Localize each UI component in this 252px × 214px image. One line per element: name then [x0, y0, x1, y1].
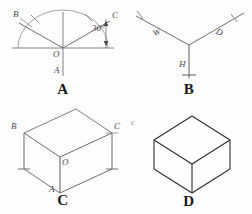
axis-width [136, 16, 189, 45]
bottom-edge-front-right [60, 169, 112, 193]
label-b: B [11, 122, 17, 131]
label-h: H [179, 60, 186, 69]
top-edge-front-left [24, 133, 60, 157]
top-edge-back-right [192, 116, 230, 140]
panel-d: c D [126, 107, 252, 214]
label-o: O [62, 158, 69, 167]
label-c: C [112, 11, 118, 20]
ray-to-b [19, 23, 63, 48]
arc-tick-right [85, 14, 92, 21]
caption-b: B [126, 81, 252, 98]
top-edge-back-right [76, 109, 112, 133]
label-a: A [54, 66, 60, 75]
label-o: O [53, 50, 60, 59]
label-angle-30: 30° [92, 24, 105, 33]
panel-c: B C O A C [0, 107, 126, 214]
caption-d: D [126, 193, 252, 210]
bottom-edge-front-left [154, 169, 192, 193]
isometric-construction-figure: B C O A 30° A W D H B [0, 0, 252, 214]
caption-a: A [0, 81, 126, 98]
top-edge-back-left [154, 116, 192, 140]
top-edge-front-left [154, 140, 192, 164]
top-edge-front-right [192, 140, 230, 164]
panel-a: B C O A 30° A [0, 0, 126, 107]
label-stray-c: c [131, 119, 135, 127]
label-b: B [13, 10, 19, 19]
bottom-edge-front-right [192, 169, 230, 193]
panel-b: W D H B [126, 0, 252, 107]
top-edge-front-right [60, 133, 112, 157]
caption-c: C [0, 192, 126, 209]
label-c: C [114, 122, 120, 131]
top-edge-back-left [24, 109, 76, 133]
